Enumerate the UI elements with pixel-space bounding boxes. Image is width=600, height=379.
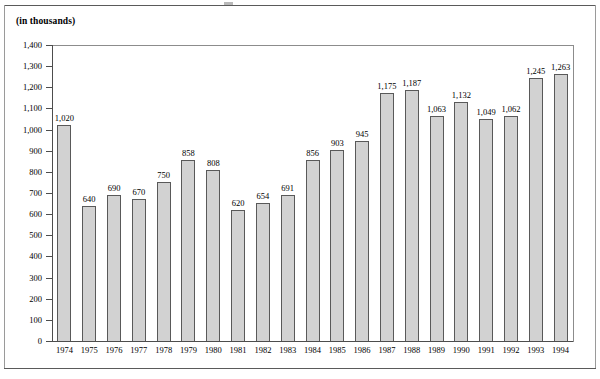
bar-value-label: 1,020 — [48, 114, 80, 123]
x-axis-tick-label: 1990 — [447, 345, 475, 355]
bar[interactable] — [380, 93, 394, 341]
bar[interactable] — [57, 125, 71, 341]
y-axis-tick — [46, 108, 52, 109]
x-axis-tick-label: 1983 — [274, 345, 302, 355]
bar-value-label: 945 — [346, 130, 378, 139]
bar[interactable] — [430, 116, 444, 341]
bar-value-label: 1,063 — [421, 105, 453, 114]
bar-value-label: 750 — [148, 171, 180, 180]
plot-border-top — [52, 45, 574, 46]
bar-value-label: 640 — [73, 195, 105, 204]
y-axis-tick-label: 700 — [29, 189, 42, 198]
bar-value-label: 1,062 — [495, 105, 527, 114]
bar[interactable] — [330, 150, 344, 341]
x-axis-tick-label: 1978 — [150, 345, 178, 355]
y-axis-tick-label: 400 — [29, 252, 42, 261]
bar-value-label: 858 — [172, 149, 204, 158]
y-axis-tick-label: 1,300 — [23, 62, 42, 71]
bar[interactable] — [405, 90, 419, 341]
x-axis-tick-label: 1979 — [174, 345, 202, 355]
y-axis-tick — [46, 87, 52, 88]
x-axis-tick-label: 1975 — [75, 345, 103, 355]
y-axis-tick — [46, 320, 52, 321]
bar-value-label: 1,187 — [396, 79, 428, 88]
x-axis-tick-label: 1988 — [398, 345, 426, 355]
y-axis-tick — [46, 130, 52, 131]
y-axis-tick-label: 0 — [38, 337, 42, 346]
y-axis-tick-label: 1,200 — [23, 83, 42, 92]
x-axis-tick-label: 1993 — [522, 345, 550, 355]
y-axis-tick — [46, 45, 52, 46]
x-axis-tick-label: 1977 — [125, 345, 153, 355]
y-axis-tick — [46, 214, 52, 215]
bar[interactable] — [529, 78, 543, 341]
chart-page: (in thousands) 1,4001,3001,2001,1001,000… — [0, 0, 600, 379]
bar-value-label: 903 — [321, 139, 353, 148]
y-axis-tick — [46, 341, 52, 342]
x-axis-tick-label: 1989 — [423, 345, 451, 355]
y-axis-tick-label: 200 — [29, 295, 42, 304]
y-axis-tick — [46, 151, 52, 152]
x-axis-tick-label: 1984 — [299, 345, 327, 355]
y-axis-tick — [46, 193, 52, 194]
bar[interactable] — [554, 74, 568, 341]
bar-value-label: 691 — [272, 184, 304, 193]
bar[interactable] — [107, 195, 121, 341]
x-axis-tick-label: 1982 — [249, 345, 277, 355]
y-axis-tick-label: 1,400 — [23, 41, 42, 50]
x-axis-tick-label: 1992 — [497, 345, 525, 355]
x-axis-line — [52, 341, 573, 342]
bar-chart-plot-area: 1,4001,3001,2001,1001,000900800700600500… — [0, 0, 600, 379]
bar[interactable] — [504, 116, 518, 341]
y-axis-tick-label: 300 — [29, 274, 42, 283]
y-axis-tick-label: 800 — [29, 168, 42, 177]
x-axis-tick-label: 1981 — [224, 345, 252, 355]
bar[interactable] — [479, 119, 493, 341]
plot-border-right — [573, 45, 574, 342]
bar[interactable] — [82, 206, 96, 341]
bar[interactable] — [256, 203, 270, 341]
x-axis-tick-label: 1976 — [100, 345, 128, 355]
bar-value-label: 654 — [247, 192, 279, 201]
y-axis-tick-label: 900 — [29, 147, 42, 156]
x-axis-tick-label: 1980 — [199, 345, 227, 355]
y-axis-tick — [46, 278, 52, 279]
bar[interactable] — [231, 210, 245, 341]
x-axis-tick-label: 1994 — [547, 345, 575, 355]
y-axis-tick-label: 600 — [29, 210, 42, 219]
x-axis-tick-label: 1991 — [472, 345, 500, 355]
x-axis-tick-label: 1987 — [373, 345, 401, 355]
x-axis-tick-label: 1986 — [348, 345, 376, 355]
bar[interactable] — [281, 195, 295, 341]
bar-value-label: 1,263 — [545, 63, 577, 72]
y-axis-tick — [46, 66, 52, 67]
bar-value-label: 856 — [297, 149, 329, 158]
y-axis-tick-label: 1,000 — [23, 126, 42, 135]
y-axis-tick — [46, 256, 52, 257]
bar[interactable] — [157, 182, 171, 341]
bar[interactable] — [306, 160, 320, 341]
bar[interactable] — [206, 170, 220, 341]
y-axis-tick — [46, 235, 52, 236]
x-axis-tick-label: 1985 — [323, 345, 351, 355]
y-axis-tick — [46, 172, 52, 173]
y-axis-tick — [46, 299, 52, 300]
bar-value-label: 1,132 — [445, 91, 477, 100]
bar[interactable] — [355, 141, 369, 341]
bar[interactable] — [181, 160, 195, 341]
bar-value-label: 670 — [123, 188, 155, 197]
bar-value-label: 808 — [197, 159, 229, 168]
y-axis-tick-label: 1,100 — [23, 104, 42, 113]
x-axis-tick-label: 1974 — [50, 345, 78, 355]
bar[interactable] — [454, 102, 468, 341]
y-axis-line — [52, 45, 53, 342]
y-axis-tick-label: 100 — [29, 316, 42, 325]
bar[interactable] — [132, 199, 146, 341]
y-axis-tick-label: 500 — [29, 231, 42, 240]
